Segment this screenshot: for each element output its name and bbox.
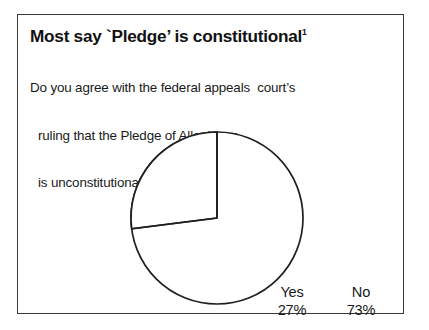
pie-label-yes-value: 27% — [278, 302, 307, 318]
pie-label-no-name: No — [352, 284, 370, 300]
pie-slice-yes — [131, 132, 217, 229]
subtitle-line-1: Do you agree with the federal appeals co… — [30, 80, 392, 96]
pie-label-yes: Yes 27% — [260, 284, 324, 319]
pie-label-yes-name: Yes — [280, 284, 303, 300]
pie-chart: Yes 27% No 73% — [121, 122, 313, 314]
pie-label-no: No 73% — [329, 284, 393, 319]
title-footnote-marker: 1 — [302, 27, 307, 37]
pie-label-no-value: 73% — [347, 302, 376, 318]
page-title: Most say `Pledge’ is constitutional1 — [30, 22, 392, 46]
chart-title-text: Most say `Pledge’ is constitutional — [30, 26, 302, 46]
figure-frame: Most say `Pledge’ is constitutional1 Do … — [17, 14, 404, 314]
